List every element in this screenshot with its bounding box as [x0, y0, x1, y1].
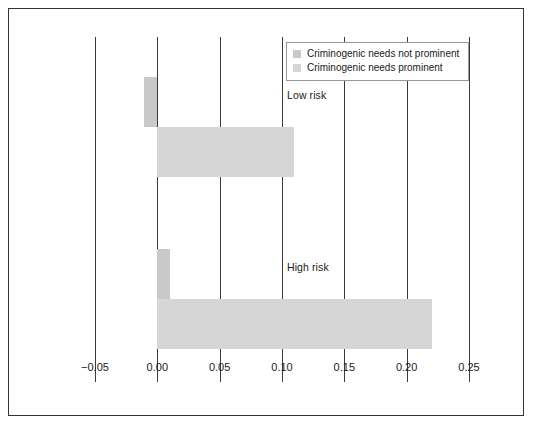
chart-figure: Low risk High risk −0.050.000.050.100.15… [0, 0, 534, 426]
bar-high-risk-not-prominent [157, 249, 169, 299]
plot-area: Low risk High risk [95, 37, 469, 382]
bar-high-risk-prominent [157, 299, 431, 349]
category-label-low-risk: Low risk [287, 89, 326, 101]
x-tick-label-6: 0.25 [458, 361, 479, 373]
legend-label-not-prominent: Criminogenic needs not prominent [307, 49, 459, 59]
x-tick-label-5: 0.20 [396, 361, 417, 373]
x-axis-tick-labels: −0.050.000.050.100.150.200.25 [9, 361, 534, 381]
legend-item-prominent: Criminogenic needs prominent [293, 61, 462, 75]
legend-label-prominent: Criminogenic needs prominent [307, 63, 443, 73]
category-label-high-risk: High risk [287, 261, 329, 273]
x-tick-label-4: 0.15 [334, 361, 355, 373]
legend-swatch-not-prominent [293, 50, 301, 58]
x-tick-label-1: 0.00 [147, 361, 168, 373]
chart-legend: Criminogenic needs not prominent Crimino… [286, 42, 469, 81]
legend-item-not-prominent: Criminogenic needs not prominent [293, 47, 462, 61]
x-tick-label-0: −0.05 [81, 361, 109, 373]
gridline-6 [469, 37, 470, 382]
gridline-0 [95, 37, 96, 382]
bar-low-risk-not-prominent [144, 77, 158, 127]
x-tick-label-3: 0.10 [271, 361, 292, 373]
figure-border: Low risk High risk −0.050.000.050.100.15… [8, 8, 524, 416]
bar-low-risk-prominent [157, 127, 294, 177]
legend-swatch-prominent [293, 64, 301, 72]
x-tick-label-2: 0.05 [209, 361, 230, 373]
